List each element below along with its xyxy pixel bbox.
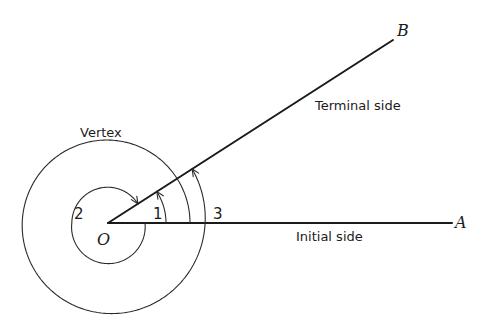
- angle-2-label: 2: [74, 205, 84, 223]
- angle-3-label: 3: [213, 205, 223, 223]
- point-a-label: A: [453, 213, 467, 232]
- initial-side-caption: Initial side: [296, 229, 363, 244]
- vertex-caption: Vertex: [80, 125, 122, 140]
- angle-2-arc: [72, 187, 146, 263]
- origin-label: O: [97, 230, 110, 249]
- point-b-label: B: [396, 21, 409, 40]
- angle-1-label: 1: [153, 205, 163, 223]
- terminal-side-caption: Terminal side: [314, 98, 401, 113]
- angle-diagram: Vertex Terminal side Initial side O A B …: [0, 0, 494, 334]
- angle-3-arc: [22, 140, 205, 314]
- terminal-side-ray: [108, 40, 393, 223]
